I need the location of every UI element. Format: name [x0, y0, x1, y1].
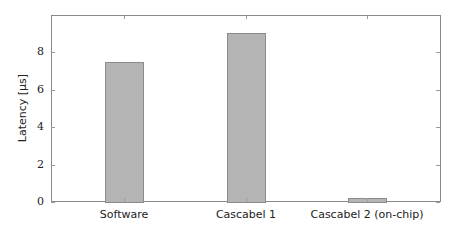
x-tick-mark-top	[124, 15, 125, 19]
x-tick-mark-top	[246, 15, 247, 19]
bar-cascabel-1	[227, 33, 266, 203]
x-tick-mark	[124, 198, 125, 202]
x-tick-label: Software	[100, 208, 149, 221]
x-tick-mark-top	[367, 15, 368, 19]
y-tick-label: 0	[30, 195, 44, 208]
y-tick-mark-right	[436, 90, 440, 91]
y-tick-label: 4	[30, 120, 44, 133]
y-tick-mark-right	[436, 165, 440, 166]
y-tick-mark-right	[436, 52, 440, 53]
y-axis-title: Latency [µs]	[16, 74, 29, 142]
y-tick-mark	[51, 165, 55, 166]
x-tick-mark	[246, 198, 247, 202]
y-tick-label: 6	[30, 83, 44, 96]
y-tick-mark	[51, 202, 55, 203]
y-tick-label: 2	[30, 158, 44, 171]
y-tick-mark-right	[436, 127, 440, 128]
x-tick-mark	[367, 198, 368, 202]
y-tick-mark-right	[436, 202, 440, 203]
bar-software	[105, 62, 144, 203]
x-tick-label: Cascabel 2 (on-chip)	[310, 208, 423, 221]
y-tick-mark	[51, 127, 55, 128]
x-tick-label: Cascabel 1	[216, 208, 276, 221]
y-tick-mark	[51, 90, 55, 91]
y-tick-mark	[51, 52, 55, 53]
y-tick-label: 8	[30, 45, 44, 58]
